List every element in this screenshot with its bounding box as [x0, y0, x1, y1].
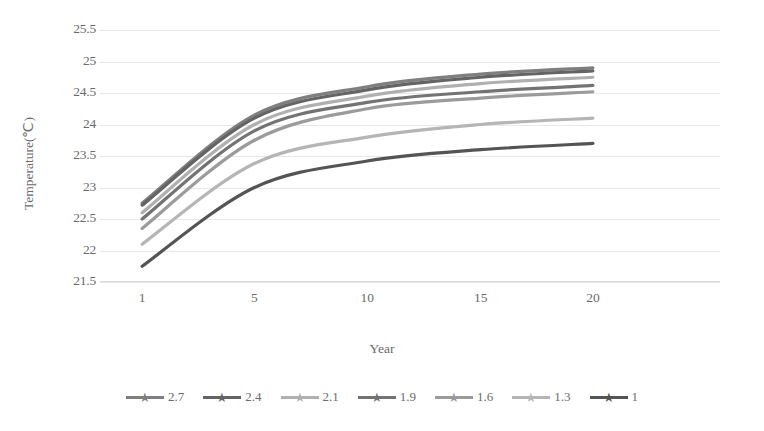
legend-label: 1.6: [476, 389, 493, 405]
legend-item-2.7[interactable]: ★2.7: [126, 389, 184, 405]
x-axis-title: Year: [0, 341, 764, 357]
legend-star-icon: ★: [294, 392, 306, 403]
line-chart: 25.52524.52423.52322.52221.5 15101520 Te…: [0, 0, 764, 431]
series-line: [142, 118, 593, 244]
legend-item-2.4[interactable]: ★2.4: [203, 389, 261, 405]
legend-star-icon: ★: [139, 392, 151, 403]
x-axis-tick-label: 1: [112, 290, 172, 306]
y-axis-tick-label: 24: [36, 117, 96, 131]
legend-swatch: ★: [358, 392, 396, 403]
x-axis-tick-label: 20: [563, 290, 623, 306]
legend-swatch: ★: [590, 392, 628, 403]
legend-swatch: ★: [512, 392, 550, 403]
legend-item-1[interactable]: ★1: [590, 389, 639, 405]
y-axis-tick-label: 23: [36, 180, 96, 194]
x-axis-tick-label: 10: [337, 290, 397, 306]
legend-label: 1.3: [553, 389, 570, 405]
x-axis-tick-label: 15: [451, 290, 511, 306]
legend-item-1.9[interactable]: ★1.9: [358, 389, 416, 405]
legend-label: 2.7: [167, 389, 184, 405]
legend-swatch: ★: [203, 392, 241, 403]
y-axis-tick-label: 25: [36, 54, 96, 68]
legend-label: 2.1: [322, 389, 339, 405]
y-axis-title: Temperature(℃): [20, 44, 37, 284]
chart-legend: ★2.7★2.4★2.1★1.9★1.6★1.3★1: [0, 389, 764, 405]
legend-item-2.1[interactable]: ★2.1: [281, 389, 339, 405]
y-axis-tick-label: 21.5: [36, 274, 96, 288]
legend-item-1.3[interactable]: ★1.3: [512, 389, 570, 405]
legend-star-icon: ★: [525, 392, 537, 403]
grid-line: [100, 282, 720, 283]
legend-star-icon: ★: [603, 392, 615, 403]
x-axis-tick-label: 5: [224, 290, 284, 306]
legend-label: 1: [631, 389, 639, 405]
legend-star-icon: ★: [448, 392, 460, 403]
series-lines: [100, 30, 720, 282]
legend-swatch: ★: [435, 392, 473, 403]
y-axis-tick-label: 25.5: [36, 22, 96, 36]
series-1.3: [137, 113, 598, 248]
legend-swatch: ★: [126, 392, 164, 403]
y-axis-tick-label: 23.5: [36, 148, 96, 162]
legend-star-icon: ★: [216, 392, 228, 403]
legend-swatch: ★: [281, 392, 319, 403]
legend-label: 1.9: [399, 389, 416, 405]
legend-item-1.6[interactable]: ★1.6: [435, 389, 493, 405]
y-axis-tick-label: 24.5: [36, 85, 96, 99]
series-2.7: [137, 63, 598, 208]
y-axis-tick-label: 22.5: [36, 211, 96, 225]
series-line: [142, 85, 593, 219]
y-axis-tick-label: 22: [36, 243, 96, 257]
legend-label: 2.4: [244, 389, 261, 405]
legend-star-icon: ★: [371, 392, 383, 403]
